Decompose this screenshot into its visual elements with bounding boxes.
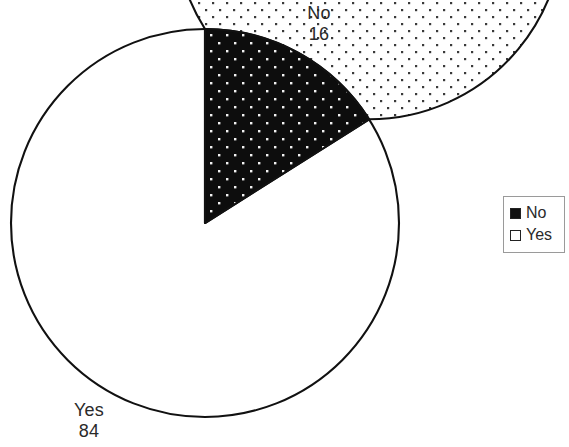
slice-label-yes: Yes 84	[53, 400, 125, 442]
legend-label-yes: Yes	[526, 226, 552, 244]
slice-label-yes-value: 84	[53, 421, 125, 442]
legend-item-yes[interactable]: Yes	[510, 224, 558, 246]
slice-label-no: No 16	[283, 3, 355, 45]
chart-legend: No Yes	[503, 196, 565, 253]
pie-chart-figure: No 16 Yes 84 No Yes	[0, 0, 569, 447]
pie-chart-graphic	[0, 0, 569, 447]
legend-swatch-yes-icon	[510, 230, 521, 241]
legend-swatch-no-icon	[510, 208, 521, 219]
legend-item-no[interactable]: No	[510, 202, 558, 224]
slice-label-yes-name: Yes	[53, 400, 125, 421]
slice-label-no-value: 16	[283, 24, 355, 45]
slice-label-no-name: No	[283, 3, 355, 24]
legend-label-no: No	[526, 204, 546, 222]
